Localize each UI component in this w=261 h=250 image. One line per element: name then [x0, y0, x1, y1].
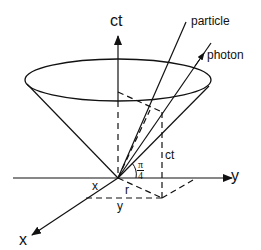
ct-height-label: ct: [165, 149, 174, 161]
light-cone-diagram: ct y x particle photon ct π 4 x y r: [0, 0, 261, 250]
angle-label: π 4: [137, 160, 144, 181]
angle-arc: [132, 163, 136, 178]
angle-denominator: 4: [137, 171, 144, 181]
diagram-graphics: [0, 0, 261, 250]
y-component-label: y: [117, 200, 123, 212]
photon-arrow: [195, 53, 204, 66]
x-component-dashed: [162, 180, 193, 198]
ct-axis-label: ct: [110, 13, 122, 29]
particle-label: particle: [191, 15, 230, 27]
top-dashed-line: [118, 92, 162, 112]
projection-dashed-line: [118, 110, 150, 178]
y-axis-label: y: [231, 168, 239, 184]
x-axis: [32, 178, 118, 235]
x-component-label: x: [92, 180, 98, 192]
cone-right-edge: [118, 86, 209, 178]
photon-label: photon: [207, 49, 244, 61]
particle-worldline: [118, 22, 186, 178]
radius-label: r: [125, 184, 129, 196]
x-axis-label: x: [19, 232, 27, 248]
